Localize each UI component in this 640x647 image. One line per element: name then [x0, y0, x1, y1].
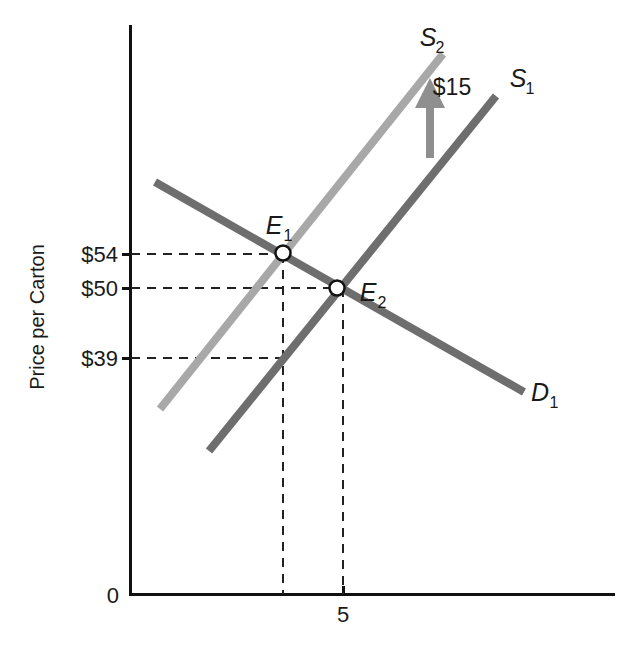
curve-label-d1: D 1: [531, 378, 559, 411]
curve-label-s2: S 2: [420, 23, 445, 56]
curve-label-s2-letter: S: [420, 23, 437, 51]
supply-curve-s2: [160, 54, 443, 409]
curve-label-d1-subscript: 1: [550, 394, 559, 411]
chart-canvas: $54 $50 $39 5 0 Price per Carton S 2 S 1…: [0, 0, 640, 647]
equilibrium-label-e1-letter: E: [266, 211, 283, 239]
curve-label-s1-subscript: 1: [526, 80, 535, 97]
origin-label: 0: [107, 583, 119, 608]
y-tick-label-54: $54: [81, 242, 118, 267]
equilibrium-label-e1-subscript: 1: [284, 227, 293, 244]
y-axis-title: Price per Carton: [26, 244, 48, 390]
supply-curve-s1: [209, 96, 496, 451]
y-tick-label-50: $50: [81, 276, 118, 301]
x-tick-label-5: 5: [337, 602, 349, 627]
equilibrium-point-e2: [330, 281, 345, 296]
curve-label-s2-subscript: 2: [436, 39, 445, 56]
supply-demand-figure: $54 $50 $39 5 0 Price per Carton S 2 S 1…: [0, 0, 640, 647]
guide-lines: [131, 254, 343, 594]
equilibrium-label-e1: E 1: [266, 211, 293, 244]
equilibrium-label-e2-letter: E: [360, 278, 377, 306]
curve-label-s1: S 1: [510, 64, 535, 97]
shift-amount-label: $15: [433, 74, 471, 100]
curve-group: [155, 54, 524, 451]
y-tick-label-39: $39: [81, 346, 118, 371]
equilibrium-point-e1: [276, 246, 291, 261]
equilibrium-label-e2-subscript: 2: [378, 294, 387, 311]
curve-label-d1-letter: D: [531, 378, 549, 406]
curve-label-s1-letter: S: [510, 64, 527, 92]
